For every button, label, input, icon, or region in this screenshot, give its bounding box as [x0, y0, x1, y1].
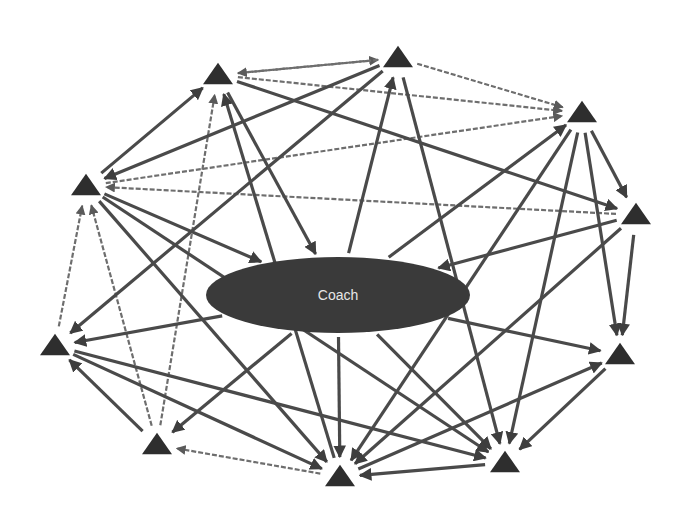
- edge-coach-to-n2: [349, 77, 394, 253]
- edge-n9-to-n10: [59, 206, 82, 327]
- coach-node: Coach: [206, 257, 470, 333]
- coach-label: Coach: [318, 287, 358, 303]
- edge-coach-to-n3: [389, 125, 566, 257]
- edge-n4-to-n5: [622, 235, 633, 335]
- edge-n3-to-n5: [585, 133, 617, 335]
- edge-n7-to-n5: [358, 363, 601, 469]
- edge-n1-to-coach: [228, 93, 316, 254]
- edge-n3-to-n4: [591, 131, 626, 198]
- edge-n7-to-n8: [177, 448, 321, 473]
- edge-n2-to-n3: [417, 64, 563, 108]
- coach-network-diagram: Coach: [0, 0, 690, 523]
- player-node-n7-triangle-icon: [325, 465, 355, 486]
- player-node-n2-triangle-icon: [383, 46, 413, 67]
- player-node-n5-triangle-icon: [605, 343, 635, 364]
- player-node-n10-triangle-icon: [71, 174, 101, 195]
- edge-n3-to-n6: [509, 133, 577, 444]
- player-node-n8-triangle-icon: [142, 433, 172, 454]
- player-node-n3-triangle-icon: [567, 101, 597, 122]
- edge-n4-to-coach: [438, 220, 616, 268]
- edge-n1-to-n3: [238, 77, 562, 111]
- player-node-n6-triangle-icon: [490, 451, 520, 472]
- player-node-n9-triangle-icon: [40, 334, 70, 355]
- player-node-n4-triangle-icon: [621, 203, 651, 224]
- edge-n6-to-n7: [360, 465, 485, 476]
- edge-coach-to-n9: [75, 316, 223, 343]
- edge-n8-to-n10: [91, 205, 151, 425]
- edge-n2-to-n1: [238, 60, 378, 73]
- player-node-n1-triangle-icon: [203, 63, 233, 84]
